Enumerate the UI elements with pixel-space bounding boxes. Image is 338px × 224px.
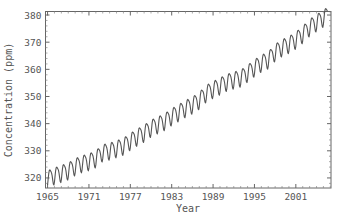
co2-concentration-line bbox=[48, 9, 328, 185]
x-tick-label: 1995 bbox=[243, 191, 266, 202]
x-axis-tick-labels: 1965197119771983198919952001 bbox=[36, 191, 307, 202]
y-axis-label: Concentration (ppm) bbox=[3, 43, 14, 157]
y-tick-label: 340 bbox=[24, 118, 41, 129]
co2-line-chart: 1965197119771983198919952001 32033034035… bbox=[0, 0, 338, 224]
y-tick-label: 320 bbox=[24, 172, 41, 183]
y-axis-tick-labels: 320330340350360370380 bbox=[24, 10, 41, 184]
x-tick-label: 1983 bbox=[160, 191, 183, 202]
x-tick-label: 2001 bbox=[284, 191, 307, 202]
y-tick-label: 370 bbox=[24, 37, 41, 48]
x-tick-label: 1971 bbox=[78, 191, 101, 202]
y-tick-label: 350 bbox=[24, 91, 41, 102]
y-tick-label: 330 bbox=[24, 145, 41, 156]
y-tick-label: 360 bbox=[24, 64, 41, 75]
x-axis-label: Year bbox=[176, 203, 200, 214]
x-tick-label: 1989 bbox=[202, 191, 225, 202]
y-tick-label: 380 bbox=[24, 10, 41, 21]
x-tick-label: 1977 bbox=[119, 191, 142, 202]
x-tick-label: 1965 bbox=[36, 191, 59, 202]
